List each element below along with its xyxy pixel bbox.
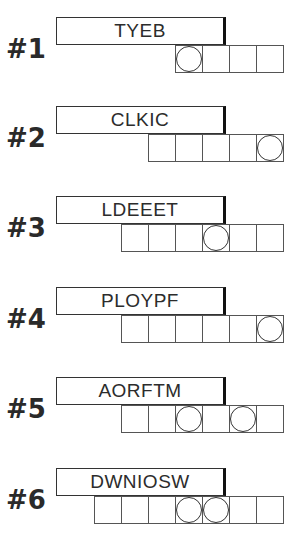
answer-boxes[interactable] bbox=[149, 134, 284, 163]
answer-cell-circled[interactable] bbox=[256, 315, 284, 343]
puzzle-number: #4 bbox=[6, 304, 46, 334]
answer-cell-circled[interactable] bbox=[256, 134, 284, 162]
scrambled-word: PLOYPF bbox=[56, 287, 226, 315]
answer-cell-circled[interactable] bbox=[175, 496, 203, 524]
answer-cell[interactable] bbox=[148, 315, 176, 343]
answer-cell[interactable] bbox=[256, 45, 284, 73]
answer-cell-circled[interactable] bbox=[229, 405, 257, 433]
answer-cell[interactable] bbox=[229, 224, 257, 252]
answer-cell[interactable] bbox=[148, 134, 176, 162]
puzzle-number: #2 bbox=[6, 123, 46, 153]
answer-boxes[interactable] bbox=[122, 405, 284, 434]
answer-boxes[interactable] bbox=[122, 315, 284, 344]
answer-cell[interactable] bbox=[175, 134, 203, 162]
answer-cell[interactable] bbox=[229, 496, 257, 524]
answer-cell[interactable] bbox=[256, 405, 284, 433]
answer-cell[interactable] bbox=[202, 134, 230, 162]
scrambled-word: DWNIOSW bbox=[56, 468, 226, 496]
scrambled-word: LDEEET bbox=[56, 196, 226, 224]
answer-cell[interactable] bbox=[148, 224, 176, 252]
answer-cell[interactable] bbox=[202, 315, 230, 343]
answer-cell[interactable] bbox=[229, 134, 257, 162]
answer-cell-circled[interactable] bbox=[202, 224, 230, 252]
answer-cell[interactable] bbox=[202, 405, 230, 433]
answer-cell[interactable] bbox=[121, 315, 149, 343]
puzzle-1: #1 TYEB bbox=[0, 0, 300, 89]
puzzle-6: #6 DWNIOSW bbox=[0, 451, 300, 537]
answer-cell-circled[interactable] bbox=[175, 405, 203, 433]
scrambled-word: CLKIC bbox=[56, 106, 226, 134]
answer-cell[interactable] bbox=[202, 45, 230, 73]
answer-cell[interactable] bbox=[229, 315, 257, 343]
puzzle-2: #2 CLKIC bbox=[0, 89, 300, 178]
puzzle-5: #5 AORFTM bbox=[0, 360, 300, 449]
answer-cell[interactable] bbox=[175, 315, 203, 343]
answer-cell[interactable] bbox=[121, 496, 149, 524]
puzzle-4: #4 PLOYPF bbox=[0, 270, 300, 359]
answer-cell[interactable] bbox=[256, 224, 284, 252]
answer-cell[interactable] bbox=[229, 45, 257, 73]
answer-boxes[interactable] bbox=[122, 224, 284, 253]
puzzle-3: #3 LDEEET bbox=[0, 179, 300, 268]
answer-cell[interactable] bbox=[175, 224, 203, 252]
puzzle-number: #5 bbox=[6, 394, 46, 424]
puzzle-number: #6 bbox=[6, 485, 46, 515]
answer-cell[interactable] bbox=[256, 496, 284, 524]
scrambled-word: TYEB bbox=[56, 17, 226, 45]
answer-cell[interactable] bbox=[148, 496, 176, 524]
puzzle-number: #3 bbox=[6, 213, 46, 243]
puzzle-number: #1 bbox=[6, 34, 46, 64]
answer-cell-circled[interactable] bbox=[202, 496, 230, 524]
answer-boxes[interactable] bbox=[95, 496, 284, 525]
scrambled-word: AORFTM bbox=[56, 377, 226, 405]
answer-cell-circled[interactable] bbox=[175, 45, 203, 73]
answer-cell[interactable] bbox=[94, 496, 122, 524]
answer-cell[interactable] bbox=[121, 224, 149, 252]
answer-cell[interactable] bbox=[121, 405, 149, 433]
answer-cell[interactable] bbox=[148, 405, 176, 433]
answer-boxes[interactable] bbox=[176, 45, 284, 74]
